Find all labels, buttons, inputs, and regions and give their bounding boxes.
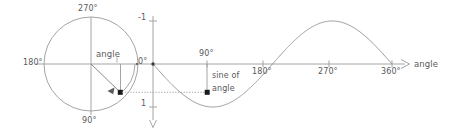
sine-wave-figure: 180° 270° 90° angle -1 0° 1 90° 180° 270…	[0, 0, 449, 135]
x-tick-label-270: 270°	[318, 68, 338, 76]
label-90-circle: 90°	[82, 117, 96, 125]
y-tick-label-one: 1	[141, 100, 146, 108]
x-axis-label-angle: angle	[414, 60, 438, 69]
y-tick-label-zero: 0°	[138, 58, 147, 66]
origin-dot	[151, 62, 154, 65]
x-tick-label-180: 180°	[252, 68, 272, 76]
x-tick-label-360: 360°	[381, 68, 401, 76]
sine-point-marker	[205, 90, 210, 95]
annotation-sine-of-angle-line2: angle	[212, 85, 235, 93]
label-angle-circle: angle	[96, 50, 120, 59]
circle-radius-line	[91, 64, 121, 93]
label-180-circle: 180°	[23, 59, 43, 67]
angle-arrowhead-icon	[108, 88, 115, 95]
label-270-circle: 270°	[78, 5, 98, 13]
x-tick-label-90: 90°	[199, 50, 213, 58]
y-tick-label-minus-one: -1	[138, 14, 146, 22]
y-axis-arrowhead-icon	[150, 120, 157, 128]
annotation-sine-of-angle-line1: sine of	[212, 72, 239, 80]
